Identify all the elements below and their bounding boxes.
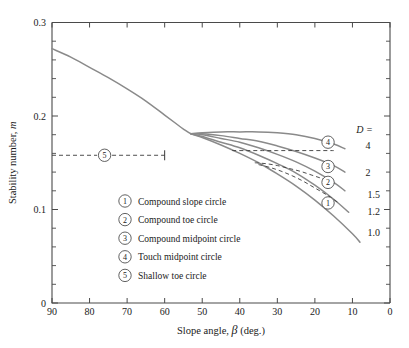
legend-marker-label-3: 3 — [123, 234, 127, 243]
legend-entry-label-1: Compound slope circle — [138, 197, 226, 207]
x-tick-label: 40 — [235, 306, 245, 317]
x-tick-label: 20 — [310, 306, 320, 317]
curve-marker-4-label: 4 — [326, 138, 330, 147]
x-tick-label: 60 — [160, 306, 170, 317]
x-tick-label: 80 — [85, 306, 95, 317]
curve-marker-3-label: 3 — [326, 162, 330, 171]
curve-end-label-10: 1.0 — [367, 227, 380, 238]
legend-entry-label-2: Compound toe circle — [138, 215, 218, 225]
curve-end-label-4: 4 — [366, 140, 371, 151]
chart-canvas: 9080706050403020100 00.10.20.3 5 1234 D … — [0, 0, 409, 348]
x-tick-label: 0 — [388, 306, 393, 317]
curve-end-labels: D =421.51.21.0 — [355, 124, 380, 239]
x-tick-label: 50 — [197, 306, 207, 317]
x-tick-label: 70 — [122, 306, 132, 317]
y-axis-tick-labels: 00.10.20.3 — [34, 17, 47, 309]
curve-end-label-15: 1.5 — [367, 189, 380, 200]
curve-marker-2-label: 2 — [326, 178, 330, 187]
data-curves — [52, 49, 360, 243]
x-tick-label: 10 — [347, 306, 357, 317]
y-tick-label: 0.1 — [34, 204, 47, 215]
legend-marker-label-1: 1 — [123, 197, 127, 206]
stability-number-chart: 9080706050403020100 00.10.20.3 5 1234 D … — [0, 0, 409, 348]
curve-markers: 1234 — [322, 136, 334, 209]
legend-marker-label-4: 4 — [123, 253, 127, 262]
y-tick-label: 0.3 — [34, 17, 47, 28]
legend-marker-label-5: 5 — [123, 271, 127, 280]
legend-entry-label-3: Compound midpoint circle — [138, 234, 240, 244]
y-tick-label: 0.2 — [34, 111, 47, 122]
legend-entry-label-5: Shallow toe circle — [138, 271, 207, 281]
curve-end-label-2: 2 — [366, 167, 371, 178]
curve-1-0 — [52, 49, 360, 243]
x-axis-tick-labels: 9080706050403020100 — [47, 306, 393, 317]
legend-marker-label-2: 2 — [123, 216, 127, 225]
legend-entry-label-4: Touch midpoint circle — [138, 252, 222, 262]
x-tick-label: 90 — [47, 306, 57, 317]
curve-end-label-12: 1.2 — [367, 206, 380, 217]
x-tick-label: 30 — [272, 306, 282, 317]
curve-marker-5-label: 5 — [103, 151, 107, 160]
y-tick-label: 0 — [41, 298, 46, 309]
shallow-toe-reference-line: 5 — [52, 149, 165, 161]
curve-marker-1-label: 1 — [326, 199, 330, 208]
dashed-transition-curves — [232, 151, 337, 202]
legend: 1Compound slope circle2Compound toe circ… — [119, 195, 241, 282]
x-axis-title: Slope angle, β (deg.) — [177, 323, 265, 337]
y-axis-title: Stability number, m — [7, 121, 18, 204]
curve-end-label-D: D = — [355, 124, 372, 135]
